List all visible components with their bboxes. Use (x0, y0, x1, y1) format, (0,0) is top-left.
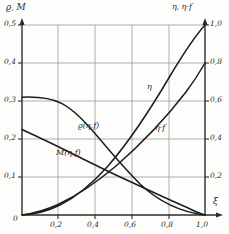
left-axis-title: ϱ, M (6, 2, 26, 12)
graph-figure: ϱ, M η, η·f ξ 0 0,5 0,4 0,3 0,2 0,1 1,0 … (0, 0, 229, 234)
curve-label-rho: ϱ(η,f) (78, 121, 99, 130)
curve-label-moment: M(η,f) (56, 148, 81, 157)
x-axis-title: ξ (213, 196, 218, 206)
right-tick-3: 0,4 (210, 133, 222, 142)
left-tick-0: 0,5 (4, 19, 16, 28)
right-tick-4: 0,2 (210, 171, 222, 180)
axis-lines (22, 22, 219, 215)
right-axis-title: η, η·f (172, 2, 192, 11)
bottom-tick-3: 0,8 (161, 220, 173, 229)
axis-arrows (19, 18, 223, 217)
bottom-tick-4: 1,0 (196, 220, 208, 229)
plot-canvas (0, 0, 229, 234)
bottom-tick-2: 0,6 (124, 220, 136, 229)
origin-tick-label: 0 (13, 214, 18, 223)
right-tick-2: 0,6 (210, 95, 222, 104)
curve-label-eta-f: η·f (155, 123, 165, 132)
left-tick-4: 0,1 (4, 171, 16, 180)
left-tick-2: 0,3 (4, 95, 16, 104)
curve-moment (22, 130, 205, 216)
grid-vertical (58, 25, 169, 215)
left-tick-1: 0,4 (4, 57, 16, 66)
right-tick-1: 0,8 (210, 57, 222, 66)
curve-eta (22, 25, 205, 215)
bottom-tick-1: 0,4 (87, 220, 99, 229)
tick-marks (18, 25, 209, 219)
curve-label-eta: η (147, 82, 152, 91)
curve-rho (22, 97, 205, 215)
left-tick-3: 0,2 (4, 133, 16, 142)
right-tick-0: 1,0 (210, 19, 222, 28)
bottom-tick-0: 0,2 (50, 220, 62, 229)
